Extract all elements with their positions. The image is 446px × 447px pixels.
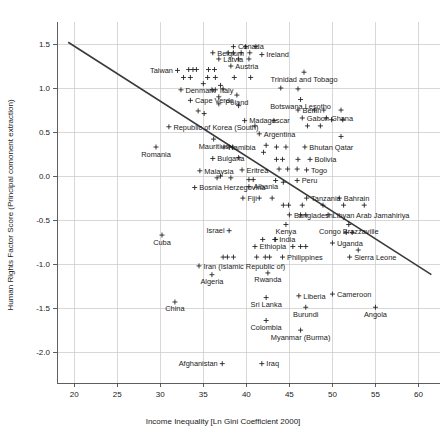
point-label: Botswana Lesotho (270, 102, 331, 111)
point-label: Togo (311, 166, 327, 175)
y-tick-label: -2.0 (36, 348, 50, 357)
point-label: Sri Lanka (251, 300, 283, 309)
point-label: Colombia (251, 323, 283, 332)
point-label: Algeria (200, 277, 224, 286)
point-label: Mauritius (199, 142, 229, 151)
plot-canvas: TaiwanCanadaBelgiumIrelandLatviaAustriaD… (0, 0, 446, 447)
point-label: Philippines (287, 253, 323, 262)
point-label: Burundi (293, 310, 319, 319)
point-label: Eritrea (247, 166, 270, 175)
point-label: Cuba (153, 238, 172, 247)
point-label: Fiji (247, 194, 257, 203)
x-tick-label: 40 (242, 390, 251, 399)
point-label: Israel (207, 226, 225, 235)
x-tick-label: 35 (199, 390, 208, 399)
point-label: Iran (Islamic Republic of) (204, 262, 286, 271)
point-label: Albania (253, 182, 279, 191)
scatter-plot-figure: TaiwanCanadaBelgiumIrelandLatviaAustriaD… (0, 0, 446, 447)
point-label: Denmark (185, 86, 215, 95)
y-tick-label: -1.5 (36, 304, 50, 313)
point-label: Congo Brazzaville (319, 227, 379, 236)
point-label: Ireland (266, 50, 289, 59)
y-tick-label: 0.0 (39, 172, 51, 181)
x-tick-label: 60 (414, 390, 423, 399)
point-label: Argentina (264, 130, 297, 139)
point-label: Cape Verde (195, 96, 234, 105)
point-label: China (165, 304, 185, 313)
point-label: Angola (364, 310, 388, 319)
point-label: Liberia (303, 292, 326, 301)
point-labels: TaiwanCanadaBelgiumIrelandLatviaAustriaD… (141, 42, 410, 368)
point-label: Bahrain (344, 194, 369, 203)
point-label: Ghana (331, 114, 354, 123)
point-label: Iraq (266, 359, 279, 368)
point-label: Afghanistan (179, 359, 218, 368)
y-axis-title: Human Rights Factor Score (Principal com… (6, 99, 15, 311)
point-label: Bulgaria (217, 154, 245, 163)
y-tick-label: 1.0 (39, 84, 51, 93)
point-label: Romania (141, 150, 171, 159)
point-label: Peru (302, 176, 318, 185)
point-label: Ethiopia (259, 242, 287, 251)
point-label: Tanzania (311, 194, 341, 203)
point-label: Cameroon (337, 290, 372, 299)
x-tick-label: 55 (371, 390, 380, 399)
point-label: Namibia (228, 143, 256, 152)
point-label: Trinidad and Tobago (271, 75, 338, 84)
point-label: Austria (235, 62, 259, 71)
point-label: Madagascar (249, 116, 290, 125)
x-tick-label: 25 (113, 390, 122, 399)
x-tick-label: 50 (328, 390, 337, 399)
point-label: Rwanda (254, 275, 282, 284)
point-label: Italy (220, 86, 234, 95)
point-label: Sierra Leone (354, 253, 396, 262)
y-tick-label: 1.5 (39, 40, 51, 49)
y-tick-label: -0.5 (36, 216, 50, 225)
point-label: Taiwan (150, 66, 173, 75)
y-tick-label: -1.0 (36, 260, 50, 269)
point-label: Republic of Korea (South) (173, 123, 258, 132)
point-label: Bangladesh (294, 211, 333, 220)
point-label: Bolivia (315, 155, 338, 164)
point-label: Libyan Arab Jamahiriya (333, 211, 411, 220)
point-label: Bhutan Qatar (309, 143, 354, 152)
point-label: Uganda (337, 239, 364, 248)
y-tick-label: 0.5 (39, 128, 51, 137)
point-label: Myanmar (Burma) (271, 333, 331, 342)
x-axis-title: Income Inequality [Ln Gini Coefficient 2… (146, 417, 301, 426)
x-tick-label: 20 (70, 390, 79, 399)
point-label: Malaysia (204, 167, 234, 176)
x-tick-label: 30 (156, 390, 165, 399)
x-tick-label: 45 (285, 390, 294, 399)
point-label: Gabon (307, 114, 329, 123)
